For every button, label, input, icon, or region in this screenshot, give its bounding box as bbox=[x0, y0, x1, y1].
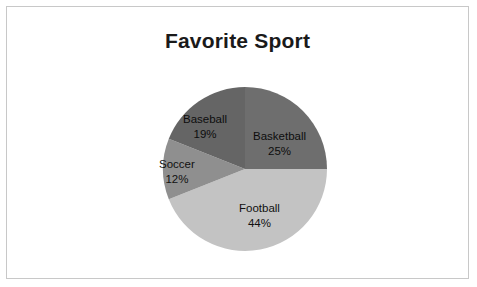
pie-label-football: Football 44% bbox=[239, 201, 280, 230]
chart-title: Favorite Sport bbox=[7, 29, 468, 53]
pie-label-football-name: Football bbox=[239, 202, 280, 214]
pie-label-baseball-name: Baseball bbox=[183, 113, 227, 125]
pie-label-football-value: 44% bbox=[239, 216, 280, 231]
pie-label-baseball-value: 19% bbox=[183, 127, 227, 142]
pie-label-soccer: Soccer 12% bbox=[159, 157, 195, 186]
pie-label-soccer-name: Soccer bbox=[159, 158, 195, 170]
pie-label-basketball-name: Basketball bbox=[253, 130, 306, 142]
pie-label-soccer-value: 12% bbox=[159, 172, 195, 187]
pie-label-baseball: Baseball 19% bbox=[183, 112, 227, 141]
pie-label-basketball: Basketball 25% bbox=[253, 129, 306, 158]
pie-label-basketball-value: 25% bbox=[253, 144, 306, 159]
chart-frame: Favorite Sport Basketball 25% Football 4… bbox=[6, 6, 469, 279]
